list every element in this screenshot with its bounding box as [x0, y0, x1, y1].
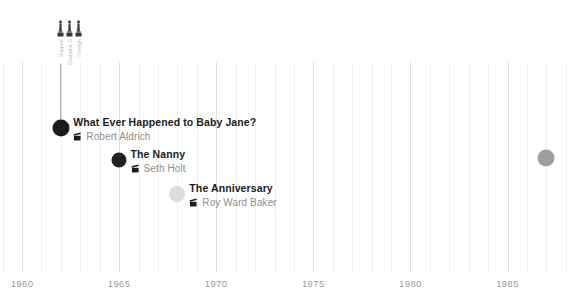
award-label: Foreign: [76, 39, 82, 57]
axis-tick-label: 1965: [108, 278, 131, 289]
gridline-minor: [41, 62, 42, 272]
oscar-statuette-icon: [65, 20, 74, 37]
award-item[interactable]: Support: [56, 20, 65, 57]
gridline-minor: [430, 62, 431, 272]
gridline-minor: [80, 62, 81, 272]
award-item[interactable]: Foreign: [74, 20, 83, 57]
film-label: What Ever Happened to Baby Jane?Robert A…: [73, 116, 256, 143]
gridline-major: [313, 62, 314, 272]
axis-tick-label: 1970: [205, 278, 228, 289]
axis-tick-label: 1975: [302, 278, 325, 289]
gridline-minor: [391, 62, 392, 272]
axis-tick-label: 1960: [11, 278, 34, 289]
gridline-major: [216, 62, 217, 272]
film-label: The NannySeth Holt: [131, 148, 186, 175]
film-label: The AnniversaryRoy Ward Baker: [189, 182, 276, 209]
gridline-minor: [197, 62, 198, 272]
film-director: Roy Ward Baker: [202, 196, 276, 209]
axis-tick-label: 1980: [399, 278, 422, 289]
gridline-major: [508, 62, 509, 272]
award-label: Costume Design: [67, 39, 73, 65]
gridline-major: [410, 62, 411, 272]
film-dot-marker[interactable]: [112, 153, 127, 168]
film-dot-marker[interactable]: [538, 150, 555, 167]
clapperboard-icon: [189, 198, 198, 207]
award-item[interactable]: Costume Design: [65, 20, 74, 65]
film-director-row: Roy Ward Baker: [189, 196, 276, 209]
gridline-minor: [255, 62, 256, 272]
gridline-minor: [527, 62, 528, 272]
gridline-minor: [333, 62, 334, 272]
timeline-chart: 196019651970197519801985 SupportCostume …: [0, 0, 577, 306]
gridline-minor: [372, 62, 373, 272]
film-dot-marker[interactable]: [52, 120, 69, 137]
gridline-minor: [294, 62, 295, 272]
gridlines: [0, 0, 577, 306]
gridline-minor: [352, 62, 353, 272]
award-group: SupportCostume DesignForeign: [56, 20, 83, 65]
film-director: Robert Aldrich: [86, 130, 150, 143]
film-director-row: Robert Aldrich: [73, 130, 256, 143]
gridline-minor: [488, 62, 489, 272]
clapperboard-icon: [73, 132, 82, 141]
award-label: Support: [58, 39, 64, 57]
clapperboard-icon: [131, 164, 140, 173]
film-director-row: Seth Holt: [131, 162, 186, 175]
gridline-minor: [236, 62, 237, 272]
gridline-minor: [275, 62, 276, 272]
gridline-minor: [469, 62, 470, 272]
axis-tick-label: 1985: [496, 278, 519, 289]
oscar-statuette-icon: [56, 20, 65, 37]
oscar-statuette-icon: [74, 20, 83, 37]
film-title: What Ever Happened to Baby Jane?: [73, 116, 256, 129]
gridline-minor: [100, 62, 101, 272]
gridline-minor: [3, 62, 4, 272]
film-title: The Nanny: [131, 148, 186, 161]
film-director: Seth Holt: [144, 162, 186, 175]
film-dot-marker[interactable]: [169, 186, 185, 202]
gridline-major: [22, 62, 23, 272]
gridline-minor: [449, 62, 450, 272]
gridline-minor: [566, 62, 567, 272]
gridline-minor: [546, 62, 547, 272]
film-title: The Anniversary: [189, 182, 276, 195]
award-connector-stem: [60, 64, 62, 128]
